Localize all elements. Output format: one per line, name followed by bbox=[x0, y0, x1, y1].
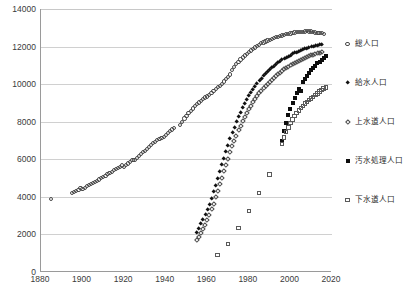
data-point bbox=[303, 101, 307, 105]
legend-marker-icon bbox=[344, 41, 351, 48]
legend-item-下水道人口[interactable]: 下水道人口 bbox=[344, 194, 395, 206]
x-tick-label-2000: 2000 bbox=[269, 275, 309, 284]
data-point bbox=[319, 88, 323, 92]
legend-marker-icon bbox=[344, 158, 351, 165]
legend-item-汚水処理人口[interactable]: 汚水処理人口 bbox=[344, 155, 403, 167]
y-tick-label-14000: 14000 bbox=[0, 5, 36, 14]
data-point bbox=[321, 86, 325, 90]
data-point bbox=[294, 111, 298, 115]
legend-marker-icon bbox=[344, 80, 351, 87]
data-point bbox=[297, 108, 301, 112]
y-tick-label-6000: 6000 bbox=[0, 155, 36, 164]
x-tick-label-1920: 1920 bbox=[103, 275, 143, 284]
data-point bbox=[290, 117, 294, 121]
data-point bbox=[282, 135, 286, 139]
data-point bbox=[257, 191, 261, 195]
data-point bbox=[288, 121, 292, 125]
data-point bbox=[305, 100, 309, 104]
plot-area bbox=[40, 9, 331, 272]
y-tick-label-2000: 2000 bbox=[0, 230, 36, 239]
y-tick-label-4000: 4000 bbox=[0, 193, 36, 202]
data-point bbox=[299, 106, 303, 110]
legend-item-label: 給水人口 bbox=[355, 79, 387, 87]
legend-item-label: 上水道人口 bbox=[355, 118, 395, 126]
data-point bbox=[313, 93, 317, 97]
legend-item-総人口[interactable]: 総人口 bbox=[344, 38, 379, 50]
population-scatter-chart: 02000400060008000100001200014000 1880190… bbox=[0, 0, 409, 305]
data-point bbox=[215, 253, 219, 257]
x-tick-label-1940: 1940 bbox=[145, 275, 185, 284]
data-point bbox=[286, 125, 290, 129]
data-point bbox=[301, 104, 305, 108]
legend-item-label: 総人口 bbox=[355, 40, 379, 48]
data-point bbox=[307, 98, 311, 102]
data-point bbox=[236, 226, 240, 230]
legend-item-給水人口[interactable]: 給水人口 bbox=[344, 77, 387, 89]
legend-item-上水道人口[interactable]: 上水道人口 bbox=[344, 116, 395, 128]
data-point bbox=[309, 96, 313, 100]
data-point bbox=[317, 89, 321, 93]
legend-marker-icon bbox=[344, 197, 351, 204]
x-axis: 18801900192019401960198020002020 bbox=[40, 275, 331, 297]
x-tick-label-1980: 1980 bbox=[228, 275, 268, 284]
x-tick-label-1880: 1880 bbox=[20, 275, 60, 284]
data-point bbox=[280, 142, 284, 146]
y-tick-label-12000: 12000 bbox=[0, 43, 36, 52]
data-point bbox=[315, 91, 319, 95]
x-tick-label-1960: 1960 bbox=[186, 275, 226, 284]
data-point bbox=[292, 114, 296, 118]
data-point bbox=[226, 242, 230, 246]
legend-item-label: 下水道人口 bbox=[355, 196, 395, 204]
series-下水道人口 bbox=[41, 9, 331, 271]
y-axis: 02000400060008000100001200014000 bbox=[0, 0, 36, 305]
y-tick-label-10000: 10000 bbox=[0, 80, 36, 89]
x-tick-label-1900: 1900 bbox=[62, 275, 102, 284]
data-point bbox=[267, 172, 271, 176]
legend-item-label: 汚水処理人口 bbox=[355, 157, 403, 165]
legend-marker-icon bbox=[344, 119, 351, 126]
data-point bbox=[247, 209, 251, 213]
x-tick-label-2020: 2020 bbox=[311, 275, 351, 284]
data-point bbox=[284, 130, 288, 134]
data-point bbox=[311, 95, 315, 99]
data-point bbox=[324, 85, 328, 89]
y-tick-label-8000: 8000 bbox=[0, 118, 36, 127]
